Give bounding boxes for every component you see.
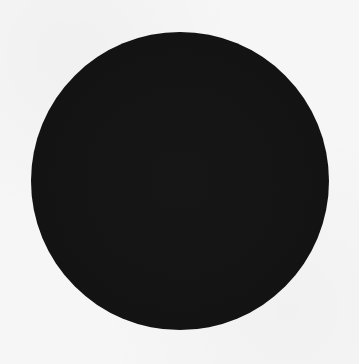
background-canvas	[0, 0, 359, 364]
black-circle	[31, 32, 329, 330]
